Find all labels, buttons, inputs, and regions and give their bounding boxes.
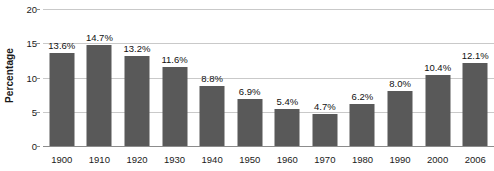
bar — [350, 104, 375, 146]
bar — [237, 99, 262, 146]
y-tick-mark — [36, 43, 40, 44]
bar — [87, 45, 112, 146]
x-tick-label: 1910 — [89, 154, 110, 165]
x-axis-ticks: 1900191019201930194019501960197019801990… — [43, 150, 494, 171]
bar — [275, 109, 300, 146]
bar-value-label: 10.4% — [424, 62, 451, 73]
plot-area: 13.6%14.7%13.2%11.6%8.8%6.9%5.4%4.7%6.2%… — [43, 0, 494, 150]
bar-chart: Percentage 05101520 13.6%14.7%13.2%11.6%… — [0, 0, 494, 171]
x-tick-label: 1930 — [164, 154, 185, 165]
x-tick-label: 1990 — [389, 154, 410, 165]
bar-group: 13.6% — [43, 0, 81, 150]
bar-value-label: 12.1% — [462, 50, 489, 61]
bar-group: 5.4% — [269, 0, 307, 150]
x-tick-label: 2000 — [427, 154, 448, 165]
bar-group: 13.2% — [118, 0, 156, 150]
y-axis-ticks: 05101520 — [18, 0, 40, 150]
y-tick-mark — [36, 9, 40, 10]
bars-layer: 13.6%14.7%13.2%11.6%8.8%6.9%5.4%4.7%6.2%… — [43, 0, 494, 150]
bar-value-label: 13.6% — [48, 40, 75, 51]
bar-group: 8.0% — [381, 0, 419, 150]
bar-group: 4.7% — [306, 0, 344, 150]
y-tick-mark — [36, 112, 40, 113]
bar-value-label: 8.8% — [201, 73, 223, 84]
bar-group: 11.6% — [156, 0, 194, 150]
bar-value-label: 6.9% — [239, 86, 261, 97]
bar-group: 6.9% — [231, 0, 269, 150]
x-tick-label: 1920 — [126, 154, 147, 165]
bar — [312, 114, 337, 146]
bar-value-label: 6.2% — [352, 91, 374, 102]
x-tick-label: 1960 — [277, 154, 298, 165]
x-tick-label: 1900 — [51, 154, 72, 165]
bar — [200, 86, 225, 146]
bar-group: 14.7% — [81, 0, 119, 150]
bar-group: 8.8% — [193, 0, 231, 150]
x-tick-label: 1980 — [352, 154, 373, 165]
y-tick-mark — [36, 146, 40, 147]
y-axis-title-text: Percentage — [4, 48, 15, 103]
bar-group: 6.2% — [344, 0, 382, 150]
bar-group: 10.4% — [419, 0, 457, 150]
y-axis-title: Percentage — [0, 0, 18, 150]
bar — [162, 67, 187, 146]
bar-value-label: 13.2% — [123, 43, 150, 54]
bar — [388, 91, 413, 146]
x-tick-label: 2006 — [465, 154, 486, 165]
bar — [463, 63, 488, 146]
bar-value-label: 14.7% — [86, 32, 113, 43]
bar-group: 12.1% — [456, 0, 494, 150]
bar — [425, 75, 450, 146]
bar-value-label: 11.6% — [161, 54, 187, 65]
x-tick-label: 1940 — [202, 154, 223, 165]
bar-value-label: 8.0% — [389, 78, 411, 89]
x-tick-label: 1950 — [239, 154, 260, 165]
bar-value-label: 4.7% — [314, 101, 336, 112]
x-tick-label: 1970 — [314, 154, 335, 165]
y-tick-mark — [36, 78, 40, 79]
bar-value-label: 5.4% — [276, 96, 298, 107]
bar — [49, 53, 74, 146]
bar — [124, 56, 149, 146]
